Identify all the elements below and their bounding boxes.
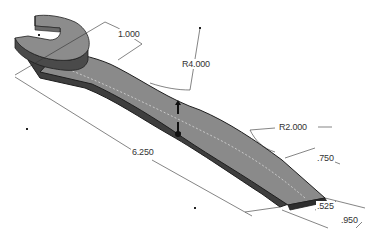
dim-end-outer-width-label[interactable]: .950	[340, 215, 359, 225]
dim-head-width-label[interactable]: 1.000	[117, 29, 141, 39]
dim-small-radius-label[interactable]: R2.000	[278, 122, 308, 132]
dim-end-width-label[interactable]: .750	[316, 153, 335, 163]
dim-large-radius-label[interactable]: R4.000	[181, 59, 211, 69]
dim-end-inner-width-label[interactable]: .525	[316, 201, 335, 211]
dim-overall-length-label[interactable]: 6.250	[131, 147, 155, 157]
